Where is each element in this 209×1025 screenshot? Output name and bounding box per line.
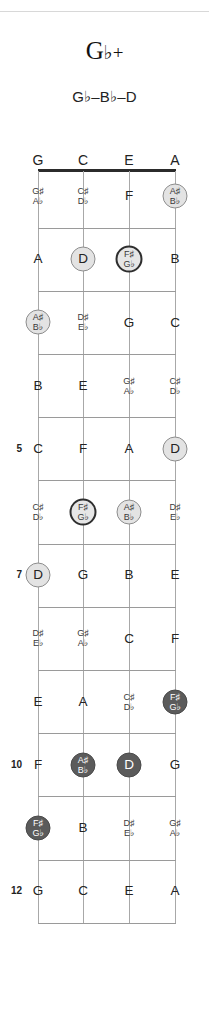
note-f8-sc: G♯A♭	[63, 627, 103, 649]
note-label-flat: G♭	[77, 512, 88, 522]
note-label-sharp: D♯	[170, 502, 181, 512]
note-f11-se: D♯E♭	[109, 817, 149, 839]
note-label-sharp: G♯	[32, 186, 44, 196]
fret-line-10	[38, 796, 176, 797]
note-f11-sa: G♯A♭	[155, 817, 195, 839]
note-label: G♯A♭	[32, 186, 44, 206]
note-label: B	[124, 568, 133, 582]
note-label: A♯B♭	[124, 502, 135, 522]
note-f9-sg: E	[18, 691, 58, 713]
note-label: B	[78, 821, 87, 835]
string-header-a: A	[155, 152, 195, 168]
note-label: C	[170, 316, 180, 330]
note-label: G♯A♭	[77, 628, 89, 648]
note-label: C♯D♭	[78, 186, 89, 206]
note-label-sharp: C♯	[78, 186, 89, 196]
note-label: F	[34, 758, 42, 772]
note-label: G	[33, 884, 44, 898]
note-f7-sa: E	[155, 564, 195, 586]
note-label: G	[170, 758, 181, 772]
fret-line-12	[38, 923, 176, 924]
note-label-flat: E♭	[78, 322, 89, 332]
note-f1-sa[interactable]: A♯B♭	[155, 185, 195, 207]
note-label-flat: G♭	[123, 259, 134, 269]
note-f6-sa: D♯E♭	[155, 501, 195, 523]
note-label: D♯E♭	[124, 818, 135, 838]
note-f2-sa: B	[155, 248, 195, 270]
note-label-flat: A♭	[32, 196, 44, 206]
note-f9-sa[interactable]: F♯G♭	[155, 691, 195, 713]
note-label: G	[78, 568, 89, 582]
note-f2-se[interactable]: F♯G♭	[109, 248, 149, 270]
fretboard-diagram: GCEAG♯A♭C♯D♭FA♯B♭ADF♯G♭BA♯B♭D♯E♭GCBEG♯A♭…	[0, 0, 209, 1025]
note-f3-sc: D♯E♭	[63, 311, 103, 333]
note-f11-sg[interactable]: F♯G♭	[18, 817, 58, 839]
note-label-sharp: C♯	[33, 502, 44, 512]
note-label-flat: D♭	[170, 386, 181, 396]
note-label: F	[125, 189, 133, 203]
note-f9-sc: A	[63, 691, 103, 713]
fret-line-2	[38, 291, 176, 292]
note-f10-sg: F	[18, 754, 58, 776]
note-label: F♯G♭	[169, 692, 180, 712]
fret-line-8	[38, 670, 176, 671]
note-label: F	[171, 632, 179, 646]
note-label: C♯D♭	[33, 502, 44, 522]
note-label: C	[78, 884, 88, 898]
note-label: A	[78, 695, 87, 709]
note-label: A♯B♭	[78, 755, 89, 775]
note-f1-sc: C♯D♭	[63, 185, 103, 207]
note-label-flat: E♭	[124, 828, 135, 838]
string-line-g	[38, 171, 39, 923]
note-f5-sc: F	[63, 438, 103, 460]
note-f1-sg: G♯A♭	[18, 185, 58, 207]
note-f10-se[interactable]: D	[109, 754, 149, 776]
note-label-flat: E♭	[170, 512, 181, 522]
note-f11-sc: B	[63, 817, 103, 839]
note-label-sharp: F♯	[123, 249, 134, 259]
nut	[38, 169, 176, 172]
note-f5-se: A	[109, 438, 149, 460]
note-f2-sg: A	[18, 248, 58, 270]
note-label: F♯G♭	[32, 818, 43, 838]
note-label: B	[33, 379, 42, 393]
note-label-flat: B♭	[33, 322, 44, 332]
note-label-sharp: A♯	[33, 312, 44, 322]
note-f2-sc[interactable]: D	[63, 248, 103, 270]
note-f4-sc: E	[63, 375, 103, 397]
fret-line-7	[38, 607, 176, 608]
note-f4-se: G♯A♭	[109, 375, 149, 397]
note-label: C	[33, 442, 43, 456]
fret-line-11	[38, 860, 176, 861]
note-f4-sa: C♯D♭	[155, 375, 195, 397]
note-label: D	[170, 442, 180, 456]
note-label-flat: E♭	[33, 638, 44, 648]
note-f6-se[interactable]: A♯B♭	[109, 501, 149, 523]
note-f6-sc[interactable]: F♯G♭	[63, 501, 103, 523]
note-label-sharp: G♯	[77, 628, 89, 638]
note-f10-sc[interactable]: A♯B♭	[63, 754, 103, 776]
note-label: G	[124, 316, 135, 330]
note-f5-sa[interactable]: D	[155, 438, 195, 460]
note-label-sharp: F♯	[32, 818, 43, 828]
note-label: C	[124, 632, 134, 646]
fret-line-1	[38, 228, 176, 229]
fret-line-3	[38, 354, 176, 355]
note-label-sharp: F♯	[169, 692, 180, 702]
note-f3-se: G	[109, 311, 149, 333]
note-label: F	[79, 442, 87, 456]
note-f7-sc: G	[63, 564, 103, 586]
note-label-sharp: A♯	[124, 502, 135, 512]
note-f3-sg[interactable]: A♯B♭	[18, 311, 58, 333]
fret-line-6	[38, 544, 176, 545]
note-f1-se: F	[109, 185, 149, 207]
note-label-sharp: G♯	[123, 376, 135, 386]
note-label: C♯D♭	[124, 692, 135, 712]
note-f7-sg[interactable]: D	[18, 564, 58, 586]
note-f12-se: E	[109, 880, 149, 902]
note-label-sharp: G♯	[169, 818, 181, 828]
note-label-sharp: F♯	[77, 502, 88, 512]
note-label: D	[33, 568, 43, 582]
note-label: B	[170, 252, 179, 266]
note-label: D♯E♭	[33, 628, 44, 648]
